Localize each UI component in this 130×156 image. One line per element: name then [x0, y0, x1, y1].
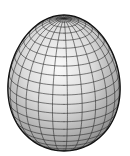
ellipsoid-figure [0, 0, 130, 156]
ellipsoid-surface [8, 15, 120, 151]
